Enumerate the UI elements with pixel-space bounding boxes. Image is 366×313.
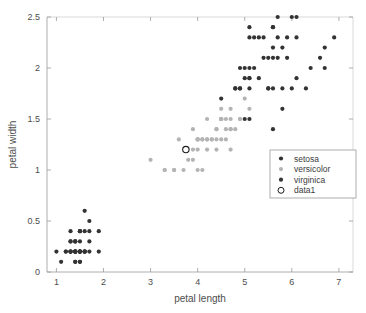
data-point-virginica	[252, 35, 256, 39]
x-tick-label: 6	[289, 277, 294, 287]
data-point-virginica	[276, 35, 280, 39]
data-point-versicolor	[196, 168, 200, 172]
data-point-virginica	[294, 15, 298, 19]
data-point-setosa	[78, 260, 82, 264]
data-point-setosa	[68, 250, 72, 254]
data-point-versicolor	[191, 158, 195, 162]
data-point-virginica	[257, 76, 261, 80]
data-point-versicolor	[219, 137, 223, 141]
data-point-virginica	[280, 107, 284, 111]
data-point-virginica	[290, 15, 294, 19]
data-point-setosa	[78, 229, 82, 233]
data-point-versicolor	[210, 137, 214, 141]
y-tick-label: 0.5	[27, 216, 40, 226]
data-point-versicolor	[219, 117, 223, 121]
scatter-plot-canvas: 123456700.511.522.5petal lengthpetal wid…	[0, 0, 366, 313]
data-point-versicolor	[186, 158, 190, 162]
y-tick-label: 2.5	[27, 12, 40, 22]
data-point-virginica	[266, 86, 270, 90]
x-tick-label: 4	[195, 277, 200, 287]
data-point-virginica	[219, 97, 223, 101]
data-point-virginica	[243, 76, 247, 80]
data-point-virginica	[243, 117, 247, 121]
data-point-virginica	[271, 86, 275, 90]
series-setosa	[54, 209, 101, 264]
data-point-virginica	[247, 25, 251, 29]
data-point-versicolor	[214, 137, 218, 141]
data-point-versicolor	[200, 137, 204, 141]
data-point-versicolor	[229, 107, 233, 111]
data-point-versicolor	[219, 107, 223, 111]
data-point-virginica	[271, 25, 275, 29]
legend-label-setosa: setosa	[294, 154, 319, 164]
data-point-virginica	[257, 35, 261, 39]
data-point-setosa	[68, 229, 72, 233]
data-point-versicolor	[214, 148, 218, 152]
x-tick-label: 1	[54, 277, 59, 287]
data-point-virginica	[271, 46, 275, 50]
y-tick-label: 0	[35, 267, 40, 277]
legend: setosaversicolorvirginicadata1	[270, 150, 356, 198]
data-point-setosa	[87, 229, 91, 233]
data-point-data1	[183, 146, 189, 152]
data-point-versicolor	[172, 168, 176, 172]
data-point-versicolor	[224, 127, 228, 131]
data-point-versicolor	[191, 148, 195, 152]
data-point-virginica	[233, 86, 237, 90]
data-point-versicolor	[229, 117, 233, 121]
data-point-virginica	[238, 86, 242, 90]
data-point-versicolor	[196, 137, 200, 141]
data-point-versicolor	[229, 127, 233, 131]
data-point-versicolor	[224, 117, 228, 121]
series-virginica	[219, 15, 336, 131]
y-tick-label: 1.5	[27, 114, 40, 124]
data-point-setosa	[83, 229, 87, 233]
data-point-virginica	[247, 86, 251, 90]
data-point-virginica	[318, 56, 322, 60]
data-point-setosa	[83, 250, 87, 254]
data-point-virginica	[285, 56, 289, 60]
data-point-versicolor	[200, 168, 204, 172]
data-point-versicolor	[196, 148, 200, 152]
y-axis-title: petal width	[7, 121, 18, 169]
data-point-versicolor	[233, 127, 237, 131]
data-point-versicolor	[148, 158, 152, 162]
series-data1	[183, 146, 189, 152]
legend-marker-virginica	[279, 178, 283, 182]
data-point-setosa	[73, 239, 77, 243]
data-point-virginica	[290, 86, 294, 90]
data-point-virginica	[280, 86, 284, 90]
data-point-versicolor	[243, 97, 247, 101]
data-point-virginica	[238, 66, 242, 70]
data-point-versicolor	[247, 107, 251, 111]
y-tick-label: 1	[35, 165, 40, 175]
data-point-versicolor	[191, 127, 195, 131]
data-point-setosa	[87, 250, 91, 254]
data-point-virginica	[294, 76, 298, 80]
x-tick-label: 5	[242, 277, 247, 287]
data-point-virginica	[294, 35, 298, 39]
data-point-virginica	[261, 35, 265, 39]
legend-label-data1: data1	[294, 185, 316, 195]
legend-label-versicolor: versicolor	[294, 164, 331, 174]
data-point-setosa	[83, 209, 87, 213]
x-tick-label: 3	[148, 277, 153, 287]
data-point-virginica	[247, 117, 251, 121]
data-point-virginica	[304, 86, 308, 90]
data-point-versicolor	[177, 137, 181, 141]
data-point-virginica	[247, 76, 251, 80]
data-point-virginica	[247, 35, 251, 39]
data-point-virginica	[252, 66, 256, 70]
y-tick-label: 2	[35, 63, 40, 73]
data-point-versicolor	[229, 148, 233, 152]
data-point-setosa	[97, 229, 101, 233]
x-tick-label: 2	[101, 277, 106, 287]
data-point-setosa	[78, 250, 82, 254]
data-point-setosa	[64, 250, 68, 254]
legend-label-virginica: virginica	[294, 175, 325, 185]
data-point-versicolor	[224, 137, 228, 141]
series-versicolor	[148, 86, 251, 172]
data-point-virginica	[280, 46, 284, 50]
x-tick-label: 7	[336, 277, 341, 287]
data-point-versicolor	[181, 168, 185, 172]
